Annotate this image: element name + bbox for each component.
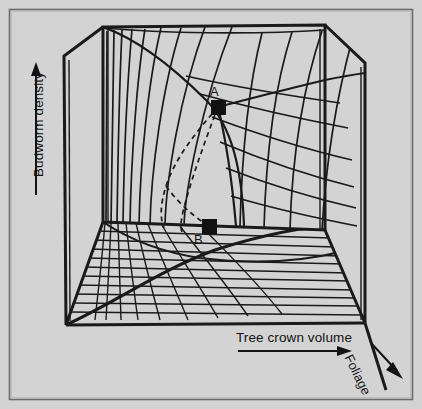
marker-label-b: B: [194, 232, 203, 247]
axis-label-budworm-density: Budworm density: [31, 60, 46, 190]
surface-contour-lines: [104, 28, 357, 226]
marker-label-a: A: [210, 84, 219, 99]
axis-label-tree-crown-volume: Tree crown volume: [236, 330, 352, 345]
tcv-axis-arrow: [238, 346, 352, 356]
surface-equilibrium-curves: [106, 27, 232, 226]
diagonal-arrow-icon: [386, 362, 403, 379]
marker-point-a: [211, 100, 226, 115]
surface-right-curves: [240, 31, 352, 230]
marker-point-b: [202, 219, 217, 234]
manifold-svg: [0, 0, 422, 409]
box-floor-front-edge: [66, 323, 365, 325]
figure-panel: Budworm density Tree crown volume Foliag…: [0, 0, 422, 409]
